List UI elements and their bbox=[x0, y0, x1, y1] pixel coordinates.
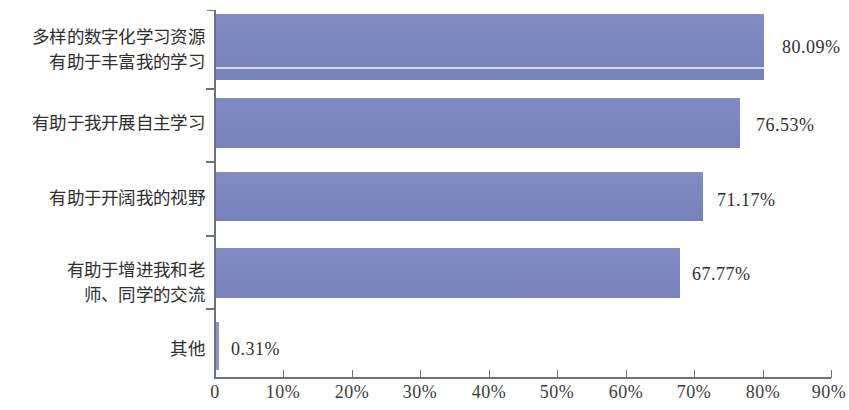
x-axis-tick bbox=[626, 370, 627, 378]
bar-series-0 bbox=[216, 14, 764, 80]
x-axis-tick bbox=[489, 370, 490, 378]
x-axis-tick-label: 80% bbox=[746, 382, 781, 403]
bar-chart: 多样的数字化学习资源 有助于丰富我的学习 80.09% 有助于我开展自主学习 7… bbox=[0, 0, 849, 410]
x-axis-tick bbox=[763, 370, 764, 378]
bar-value-label: 0.31% bbox=[231, 339, 280, 360]
bar-value-label: 67.77% bbox=[692, 264, 751, 285]
x-axis-tick-label: 50% bbox=[540, 382, 575, 403]
y-axis-top-cap bbox=[207, 10, 215, 11]
x-axis-tick-label: 90% bbox=[812, 382, 847, 403]
y-axis-tick bbox=[206, 88, 215, 90]
bar-series-2 bbox=[216, 172, 703, 221]
y-axis-tick bbox=[206, 308, 215, 310]
x-axis-tick bbox=[215, 370, 216, 378]
x-axis-tick bbox=[557, 370, 558, 378]
x-axis-tick-label: 40% bbox=[472, 382, 507, 403]
x-axis-tick-label: 30% bbox=[403, 382, 438, 403]
category-label: 有助于增进我和老 师、同学的交流 bbox=[67, 258, 205, 308]
y-axis-tick bbox=[206, 161, 215, 163]
x-axis-tick bbox=[283, 370, 284, 378]
x-axis-tick-label: 60% bbox=[609, 382, 644, 403]
bar-value-label: 76.53% bbox=[756, 115, 815, 136]
x-axis-tick-label: 70% bbox=[677, 382, 712, 403]
x-axis-tick-label: 10% bbox=[266, 382, 301, 403]
y-axis-tick bbox=[206, 235, 215, 237]
x-axis-tick bbox=[694, 370, 695, 378]
bar-value-label: 80.09% bbox=[782, 37, 841, 58]
category-label: 有助于开阔我的视野 bbox=[49, 186, 205, 211]
bar-value-label: 71.17% bbox=[717, 190, 776, 211]
scan-artifact-line bbox=[216, 67, 764, 69]
x-axis-line bbox=[214, 377, 831, 379]
x-axis-tick-label: 0 bbox=[210, 382, 220, 403]
plot-area: 多样的数字化学习资源 有助于丰富我的学习 80.09% 有助于我开展自主学习 7… bbox=[0, 0, 849, 410]
category-label: 多样的数字化学习资源 有助于丰富我的学习 bbox=[32, 25, 205, 75]
bar-series-4 bbox=[216, 322, 219, 370]
bar-series-1 bbox=[216, 98, 740, 148]
x-axis-tick bbox=[352, 370, 353, 378]
category-label: 其他 bbox=[170, 337, 205, 362]
x-axis-tick bbox=[420, 370, 421, 378]
category-label: 有助于我开展自主学习 bbox=[32, 111, 205, 136]
x-axis-tick bbox=[831, 370, 832, 378]
x-axis-tick-label: 20% bbox=[335, 382, 370, 403]
bar-series-3 bbox=[216, 248, 680, 298]
